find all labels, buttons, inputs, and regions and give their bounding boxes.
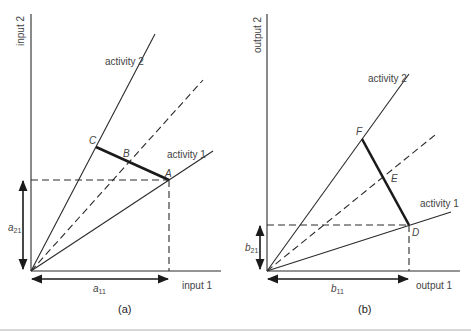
dim-label-a21: a21 (8, 222, 21, 234)
activity-1-ray-a (31, 151, 213, 271)
dashed-ray-a (31, 80, 203, 271)
dim-label-b11: b11 (331, 283, 344, 295)
activity-2-label-a: activity 2 (105, 56, 144, 67)
activity-1-label-b: activity 1 (420, 198, 459, 209)
caption-a: (a) (118, 303, 131, 315)
panel-b: output 2 output 1 activity 2 activity 1 … (245, 14, 460, 315)
panel-a: input 2 input 1 activity 2 activity 1 C … (8, 14, 221, 315)
point-e: E (391, 173, 398, 184)
diagram-canvas: input 2 input 1 activity 2 activity 1 C … (0, 0, 471, 331)
y-axis-label-a: input 2 (15, 16, 26, 46)
dim-label-b21: b21 (245, 242, 258, 254)
activity-2-label-b: activity 2 (368, 73, 407, 84)
y-axis-label-b: output 2 (252, 16, 263, 53)
segment-ca (96, 147, 169, 180)
point-d: D (412, 227, 419, 238)
x-axis-label-a: input 1 (182, 280, 212, 291)
point-b: B (123, 148, 130, 159)
point-a: A (164, 168, 172, 179)
dim-label-a11: a11 (93, 283, 106, 295)
caption-b: (b) (358, 303, 371, 315)
x-axis-label-b: output 1 (416, 280, 453, 291)
point-f: F (356, 126, 363, 137)
segment-fd (362, 139, 409, 225)
point-c: C (89, 135, 97, 146)
activity-1-ray-b (267, 212, 451, 271)
activity-2-ray-b (267, 74, 409, 271)
activity-1-label-a: activity 1 (167, 149, 206, 160)
activity-2-ray-a (31, 34, 155, 271)
